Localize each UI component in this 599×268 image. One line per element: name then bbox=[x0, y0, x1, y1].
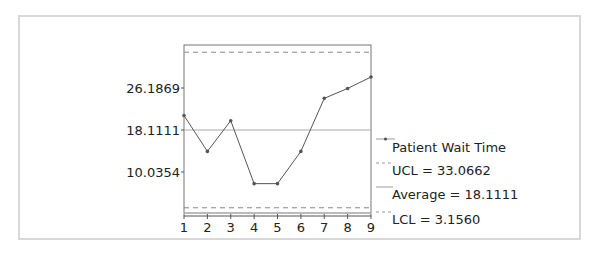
legend-patient-wait-time-label: Patient Wait Time bbox=[392, 140, 506, 155]
data-point bbox=[276, 182, 280, 186]
y-tick-label: 18.1111 bbox=[126, 123, 180, 138]
data-point bbox=[182, 114, 186, 118]
data-point bbox=[229, 119, 233, 123]
data-point bbox=[322, 97, 326, 101]
data-point bbox=[299, 150, 303, 154]
legend-ucl-label: UCL = 33.0662 bbox=[392, 163, 491, 178]
tick-labels: 12345678926.186918.111110.0354 bbox=[126, 81, 375, 235]
x-tick-label: 3 bbox=[227, 220, 235, 235]
x-tick-label: 4 bbox=[250, 220, 258, 235]
data-point bbox=[252, 182, 256, 186]
data-point bbox=[369, 75, 373, 79]
y-tick-label: 26.1869 bbox=[126, 81, 180, 96]
y-tick-label: 10.0354 bbox=[126, 165, 180, 180]
legend-average-label: Average = 18.1111 bbox=[392, 187, 518, 202]
control-chart: 12345678926.186918.111110.0354 Patient W… bbox=[0, 0, 599, 268]
outer-frame bbox=[19, 16, 580, 239]
legend-patient-wait-time-marker bbox=[384, 137, 387, 140]
x-tick-label: 8 bbox=[343, 220, 351, 235]
data-point bbox=[346, 87, 350, 91]
legend: Patient Wait TimeUCL = 33.0662Average = … bbox=[376, 137, 518, 227]
plot-area bbox=[181, 45, 373, 219]
x-tick-label: 7 bbox=[320, 220, 328, 235]
x-tick-label: 1 bbox=[180, 220, 188, 235]
plot-border bbox=[184, 45, 371, 213]
data-point bbox=[206, 150, 210, 154]
legend-lcl-label: LCL = 3.1560 bbox=[392, 212, 480, 227]
x-tick-label: 2 bbox=[203, 220, 211, 235]
x-tick-label: 6 bbox=[297, 220, 305, 235]
x-tick-label: 5 bbox=[273, 220, 281, 235]
x-tick-label: 9 bbox=[367, 220, 375, 235]
